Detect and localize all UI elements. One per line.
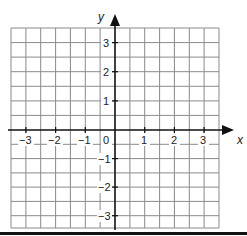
coordinate-grid: y x −3 −2 −1 0 1 2 3 3 2 1 −1 −2 −3 [0, 0, 247, 236]
y-tick-label: −1 [98, 153, 111, 165]
x-tick-label: 2 [171, 134, 177, 146]
x-axis-label: x [236, 133, 244, 147]
x-tick-label: −3 [19, 134, 32, 146]
page-divider [0, 232, 247, 235]
x-tick-label: 1 [141, 134, 147, 146]
y-tick-label: 1 [103, 95, 109, 107]
label-backgrounds [18, 36, 209, 222]
x-tick-label: −1 [78, 134, 91, 146]
x-axis-arrow-icon [222, 125, 234, 135]
x-tick-label: 3 [200, 134, 206, 146]
y-axis-label: y [97, 10, 105, 24]
x-tick-label: −2 [48, 134, 61, 146]
y-tick-label: 3 [103, 37, 109, 49]
y-tick-label: 2 [103, 66, 109, 78]
y-tick-label: −2 [98, 181, 111, 193]
y-tick-label: −3 [98, 210, 111, 222]
y-axis-arrow-icon [110, 14, 120, 26]
origin-label: 0 [103, 134, 109, 146]
